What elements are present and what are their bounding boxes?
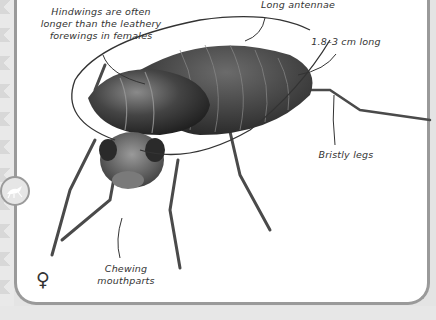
leader-antennae: [245, 18, 265, 41]
label-antennae: Long antennae: [258, 0, 338, 11]
label-mouthparts: Chewing mouthparts: [86, 263, 166, 287]
leg-front-left: [52, 140, 95, 255]
label-hindwings: Hindwings are often longer than the leat…: [36, 6, 166, 42]
grasshopper-icon: [5, 183, 25, 199]
label-length: 1.8–3 cm long: [306, 36, 386, 48]
eye-right: [145, 138, 165, 162]
female-symbol-icon: ♀: [36, 268, 50, 290]
leader-mouthparts: [118, 218, 122, 258]
mouthparts: [112, 171, 144, 189]
label-legs: Bristly legs: [306, 149, 386, 161]
leg-hind-right: [300, 90, 430, 120]
leg-mid: [170, 160, 180, 268]
eye-left: [99, 139, 117, 161]
insect-badge: [0, 176, 30, 206]
leader-legs: [333, 95, 335, 145]
